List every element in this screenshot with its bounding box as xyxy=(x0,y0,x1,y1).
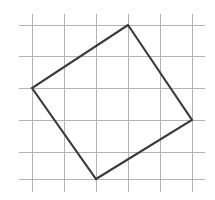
figure-container xyxy=(0,0,215,200)
grid-figure-canvas xyxy=(0,0,215,200)
